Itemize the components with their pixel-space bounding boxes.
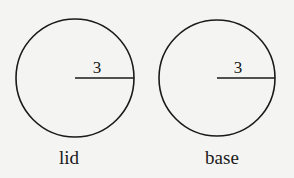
lid-radius-label: 3 — [93, 58, 102, 77]
lid-figure: 3 lid — [16, 19, 134, 168]
lid-label: lid — [59, 147, 80, 168]
diagram-canvas: 3 lid 3 base — [0, 0, 294, 178]
base-figure: 3 base — [159, 20, 275, 168]
base-radius-label: 3 — [234, 58, 243, 77]
base-label: base — [205, 147, 239, 168]
